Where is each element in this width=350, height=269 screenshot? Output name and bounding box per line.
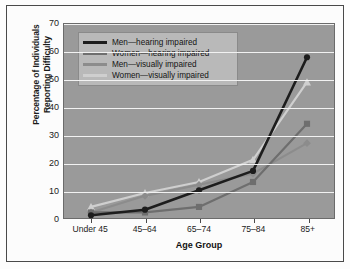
legend-item: Women—hearing impaired [83,48,232,59]
gridline [64,192,334,193]
x-tick-label: 75–84 [241,224,265,234]
y-axis-tick-labels: 010203040506070 [37,22,59,228]
x-axis-title: Age Group [63,240,335,250]
gridline [64,80,334,81]
legend-label: Men—visually impaired [112,60,197,69]
gridline [64,136,334,137]
data-point-marker [196,204,202,210]
legend-label: Women—hearing impaired [112,49,209,58]
legend-item: Men—hearing impaired [83,37,232,48]
y-tick-label: 50 [49,74,59,84]
legend-swatch [83,74,107,77]
y-tick-label: 20 [49,158,59,168]
gridline [64,24,334,25]
plot-area: Men—hearing impairedWomen—hearing impair… [63,23,335,219]
y-tick-label: 40 [49,102,59,112]
x-axis-tick [309,219,310,223]
series-line [91,143,307,212]
data-point-marker [88,212,94,218]
chart-frame: Percentage of Individuals Reporting Diff… [6,5,344,262]
legend-swatch [83,41,107,45]
y-tick-label: 10 [49,186,59,196]
gridline [64,52,334,53]
data-point-marker [250,179,256,185]
x-axis-tick [91,219,92,223]
legend-swatch [83,63,107,66]
x-tick-label: 85+ [301,224,316,234]
x-tick-label: 65–74 [187,224,211,234]
data-point-marker [304,121,310,127]
x-axis-tick [254,219,255,223]
y-tick-label: 60 [49,46,59,56]
legend-label: Men—hearing impaired [112,38,197,47]
legend-item: Men—visually impaired [83,59,232,70]
x-axis-tick [200,219,201,223]
chart-page: Percentage of Individuals Reporting Diff… [0,0,350,269]
data-point-marker [304,54,310,60]
data-point-marker [142,207,148,213]
gridline [64,108,334,109]
x-tick-label: 45–64 [133,224,157,234]
y-tick-label: 30 [49,130,59,140]
chart-legend: Men—hearing impairedWomen—hearing impair… [78,32,238,86]
data-point-marker [250,168,256,174]
x-tick-label: Under 45 [73,224,108,234]
y-tick-label: 0 [54,214,59,224]
x-axis-tick [146,219,147,223]
gridline [64,164,334,165]
legend-label: Women—visually impaired [112,71,209,80]
y-tick-label: 70 [49,18,59,28]
x-axis-tick-labels: Under 4545–6465–7475–8485+ [63,224,335,238]
